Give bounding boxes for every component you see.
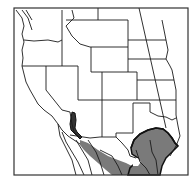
range-map: Western United States and northern Mexic… bbox=[0, 0, 191, 188]
map-canvas bbox=[0, 0, 191, 188]
